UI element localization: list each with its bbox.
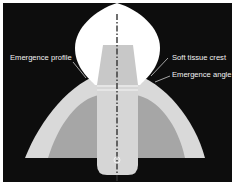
diagram-frame: Emergence profile Soft tissue crest Emer… (0, 0, 235, 185)
implant-diagram: Emergence profile Soft tissue crest Emer… (0, 0, 235, 185)
label-emergence-angle: Emergence angle (172, 70, 232, 79)
label-soft-tissue-crest: Soft tissue crest (172, 53, 227, 62)
label-emergence-profile: Emergence profile (10, 53, 72, 62)
